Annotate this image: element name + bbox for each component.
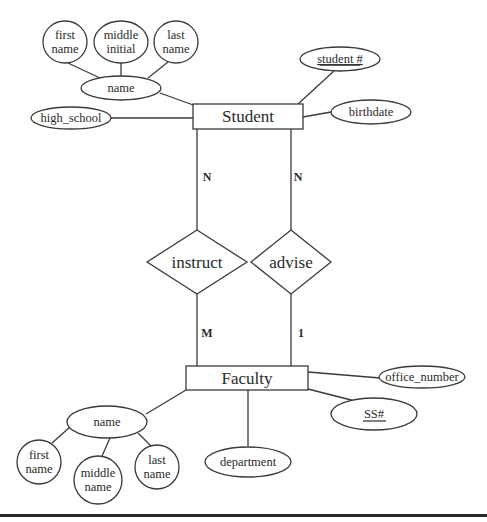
faculty-office-number-attribute: office_number: [379, 366, 465, 388]
advise-faculty-cardinality: 1: [298, 326, 304, 340]
student-name-attribute: name: [81, 76, 161, 100]
label: name: [25, 462, 53, 476]
relationship-label: advise: [269, 253, 312, 272]
label: high_school: [40, 111, 102, 125]
advise-relationship: advise: [251, 230, 331, 294]
line-name-to-faculty: [146, 390, 186, 414]
label: name: [107, 81, 135, 95]
line-name-to-student: [160, 93, 196, 106]
label: middle: [81, 466, 116, 480]
faculty-middle-name-attribute: middle name: [74, 456, 122, 504]
label: name: [51, 42, 79, 56]
line-student-number-to-student: [298, 71, 334, 104]
line-fac-last-name-to-name: [138, 433, 152, 447]
instruct-student-cardinality: N: [203, 170, 212, 184]
label: office_number: [385, 370, 459, 384]
label: initial: [106, 42, 136, 56]
label: first: [55, 28, 76, 42]
student-middle-initial-attribute: middle initial: [94, 21, 148, 63]
entity-label: Faculty: [222, 369, 273, 388]
student-entity: Student: [193, 104, 303, 129]
line-ss-number-to-faculty: [308, 389, 355, 401]
label: middle: [104, 28, 139, 42]
student-first-name-attribute: first name: [43, 21, 87, 63]
instruct-faculty-cardinality: M: [201, 326, 212, 340]
label: last: [148, 453, 166, 467]
label: name: [143, 467, 171, 481]
instruct-relationship: instruct: [147, 230, 247, 294]
line-birthdate-to-student: [303, 112, 331, 117]
label: name: [93, 415, 121, 429]
label: name: [162, 42, 190, 56]
line-last-name-to-name: [148, 62, 168, 78]
faculty-department-attribute: department: [205, 447, 291, 477]
student-birthdate-attribute: birthdate: [331, 100, 411, 124]
faculty-last-name-attribute: last name: [135, 445, 179, 489]
label: last: [167, 28, 185, 42]
er-diagram: first name middle initial last name name…: [0, 0, 487, 522]
student-number-key-attribute: student #: [300, 47, 380, 71]
line-first-name-to-name: [68, 63, 100, 78]
bottom-rule: [0, 514, 487, 517]
label: student #: [317, 52, 363, 66]
entity-label: Student: [222, 107, 274, 126]
line-office-number-to-faculty: [308, 372, 380, 378]
advise-student-cardinality: N: [294, 170, 303, 184]
faculty-entity: Faculty: [186, 366, 308, 390]
faculty-name-attribute: name: [67, 406, 147, 438]
student-high-school-attribute: high_school: [31, 107, 111, 129]
label: department: [220, 455, 277, 469]
faculty-first-name-attribute: first name: [17, 440, 61, 484]
line-fac-first-name-to-name: [52, 427, 70, 443]
line-fac-middle-name-to-name: [102, 438, 110, 456]
label: SS#: [364, 407, 385, 421]
label: birthdate: [349, 105, 394, 119]
label: first: [29, 448, 50, 462]
student-last-name-attribute: last name: [154, 21, 198, 63]
relationship-label: instruct: [172, 253, 223, 272]
label: name: [84, 480, 112, 494]
faculty-ss-number-key-attribute: SS#: [331, 398, 417, 430]
